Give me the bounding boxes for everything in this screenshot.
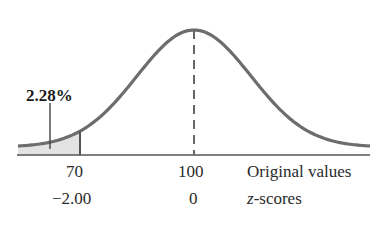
scores-text: -scores [254, 189, 302, 208]
row-label-z-scores: z-scores [247, 190, 302, 207]
tick-label-70: 70 [66, 163, 83, 180]
percent-label: 2.28% [26, 87, 73, 104]
z-italic: z [247, 189, 254, 208]
normal-distribution-figure: 2.28% 70 100 Original values −2.00 0 z-s… [0, 0, 382, 229]
tick-label-100: 100 [178, 163, 204, 180]
row-label-original-values: Original values [247, 163, 351, 180]
tick-label-z-0: 0 [189, 190, 198, 207]
tick-label-z-neg2: −2.00 [52, 190, 91, 207]
